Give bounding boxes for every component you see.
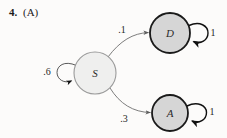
- edge-d-self-loop-label: 1: [211, 27, 216, 38]
- node-a[interactable]: A: [152, 95, 188, 131]
- edge-s-self-loop-label: .6: [43, 66, 51, 77]
- edge-a-self-loop-path: [187, 104, 207, 122]
- edge-a-self-loop: 1: [187, 104, 215, 122]
- node-a-label: A: [166, 107, 174, 119]
- edge-d-self-loop: 1: [189, 24, 216, 43]
- edge-a-self-loop-label: 1: [210, 106, 215, 117]
- node-d-label: D: [165, 27, 174, 39]
- edge-s-to-d: .1: [108, 24, 149, 58]
- diagram-page: 4. (A) .1 .3 .6 D: [0, 0, 227, 138]
- edge-s-to-a: .3: [110, 88, 151, 124]
- edge-s-to-d-path: [108, 33, 149, 57]
- edge-s-to-a-label: .3: [120, 113, 128, 124]
- node-d[interactable]: D: [150, 13, 190, 53]
- edge-s-to-d-label: .1: [118, 24, 126, 35]
- edge-s-to-a-path: [110, 88, 151, 113]
- node-s[interactable]: S: [74, 52, 116, 94]
- node-s-label: S: [92, 67, 98, 79]
- state-diagram: .1 .3 .6 D 1 A 1: [0, 0, 227, 138]
- edge-d-self-loop-path: [189, 24, 208, 43]
- edge-s-self-loop: .6: [43, 63, 76, 82]
